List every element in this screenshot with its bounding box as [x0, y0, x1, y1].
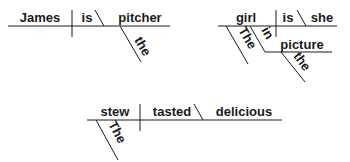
modifier-word: The	[105, 118, 129, 145]
complement-divider	[95, 10, 104, 26]
diagram-3: stew tasted delicious The	[87, 104, 282, 160]
complement-divider	[297, 10, 306, 26]
verb-word: is	[82, 10, 93, 25]
subject-word: James	[20, 10, 60, 25]
preposition-word: in	[258, 24, 277, 42]
article-word: The	[235, 24, 260, 52]
diagram-2: girl is she The in picture the	[218, 10, 337, 82]
sentence-diagrams: James is pitcher the girl is she The in …	[0, 0, 350, 162]
complement-divider	[194, 104, 203, 120]
subject-word: girl	[236, 10, 256, 25]
diagram-1: James is pitcher the	[8, 10, 170, 62]
verb-word: tasted	[153, 104, 191, 119]
complement-word: pitcher	[118, 10, 161, 25]
subject-word: stew	[101, 104, 131, 119]
modifier-word: the	[131, 34, 154, 58]
complement-word: delicious	[216, 104, 272, 119]
object-article-word: the	[291, 49, 314, 74]
complement-word: she	[311, 10, 333, 25]
verb-word: is	[283, 10, 294, 25]
